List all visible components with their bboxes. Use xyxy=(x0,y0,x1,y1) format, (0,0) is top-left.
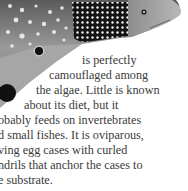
body-text-line: d small fishes. It is oviparous, xyxy=(0,128,144,143)
body-text-line: the algae. Little is known xyxy=(36,83,160,98)
body-text-line: e substrate. xyxy=(0,173,53,188)
body-text-line: ndrils that anchor the cases to xyxy=(0,158,143,173)
body-text-line: obably feeds on invertebrates xyxy=(0,113,141,128)
body-text-line: camouflaged among xyxy=(49,68,148,83)
body-text-line: is perfectly xyxy=(82,53,136,68)
body-text-line: ving egg cases with curled xyxy=(0,143,127,158)
body-text-line: about its diet, but it xyxy=(24,98,118,113)
book-page: is perfectly camouflaged among the algae… xyxy=(0,0,188,191)
